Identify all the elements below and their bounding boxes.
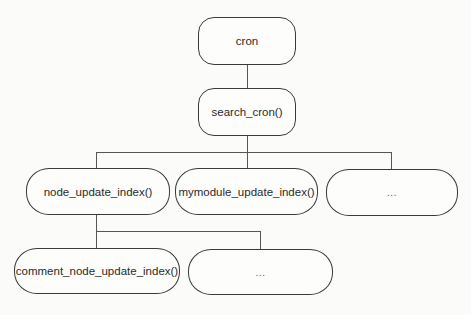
- connector-level2-bar: [96, 152, 391, 153]
- node-label: node_update_index(): [44, 186, 153, 198]
- node-label: cron: [236, 35, 258, 47]
- connector-search-down: [247, 136, 248, 152]
- connector-level3-bar: [96, 231, 260, 232]
- node-level2-more: ...: [326, 169, 458, 216]
- node-label: mymodule_update_index(): [178, 186, 314, 198]
- node-label: ...: [387, 187, 397, 198]
- node-level3-more: ...: [188, 249, 333, 295]
- node-comment-node-update-index: comment_node_update_index(): [14, 248, 180, 294]
- connector-cron-search: [247, 65, 248, 88]
- connector-to-node-update: [96, 152, 97, 168]
- node-search-cron: search_cron(): [198, 88, 296, 136]
- connector-to-level3-more: [260, 231, 261, 249]
- node-label: comment_node_update_index(): [16, 265, 178, 277]
- node-label: search_cron(): [212, 106, 283, 118]
- node-mymodule-update-index: mymodule_update_index(): [175, 168, 318, 215]
- connector-to-mymodule: [247, 152, 248, 168]
- node-cron: cron: [198, 17, 296, 65]
- node-node-update-index: node_update_index(): [26, 168, 170, 215]
- connector-to-level2-more: [391, 152, 392, 169]
- node-label: ...: [256, 267, 266, 278]
